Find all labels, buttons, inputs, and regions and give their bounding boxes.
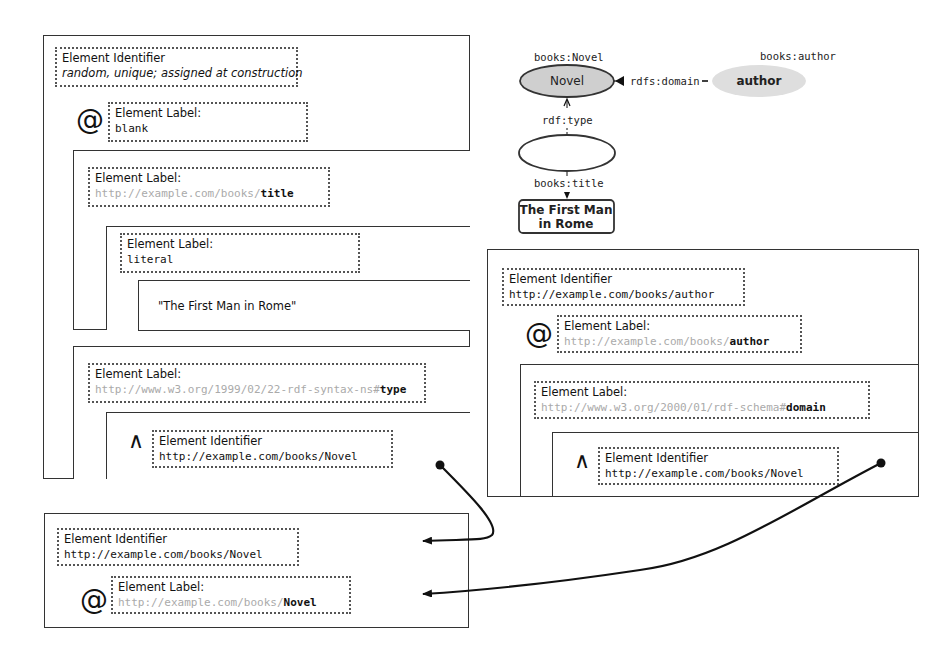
type-ref-identifier-box: Element Identifier http://example.com/bo… [152,430,393,468]
type-edge-label: rdf:type [542,114,593,126]
novel-node [520,65,614,97]
label-heading: Element Label: [118,580,344,595]
label-value: http://example.com/books/Novel [118,595,344,610]
identifier-heading: Element Identifier [605,451,832,466]
reference-caret-icon: ∧ [128,430,144,452]
domain-ref-identifier-box: Element Identifier http://example.com/bo… [598,447,839,485]
novel-label-box: Element Label: http://example.com/books/… [111,576,351,614]
at-icon: @ [80,586,108,614]
literal-label-box: Element Label: literal [120,233,360,273]
label-heading: Element Label: [541,385,863,400]
novel-identifier-box: Element Identifier http://example.com/bo… [57,528,299,566]
title-label-box: Element Label: http://example.com/books/… [88,167,330,207]
domain-edge-label: rdfs:domain [630,75,700,87]
left-label-box: Element Label: blank [108,102,308,142]
title-arrowhead-icon [564,192,570,199]
identifier-heading: Element Identifier [509,272,738,287]
identifier-heading: Element Identifier [64,532,292,547]
at-icon: @ [525,320,553,348]
identifier-value: random, unique; assigned at construction [62,66,291,81]
author-node [712,65,806,97]
identifier-value: http://example.com/books/Novel [605,466,832,481]
label-value: blank [115,121,301,136]
type-label-box: Element Label: http://www.w3.org/1999/02… [88,363,426,403]
label-value: http://example.com/books/author [564,334,795,349]
novel-uri-label: books:Novel [534,51,604,63]
label-value: http://example.com/books/title [95,186,323,201]
blank-node [519,135,615,171]
label-heading: Element Label: [127,237,353,252]
literal-value-text: "The First Man in Rome" [158,299,296,313]
label-heading: Element Label: [95,367,419,382]
domain-arrowhead-icon [615,76,624,86]
literal-node [519,200,614,233]
literal-node-line2: in Rome [539,217,594,231]
literal-node-line1: The First Man [520,203,613,217]
identifier-value: http://example.com/books/author [509,287,738,302]
novel-node-label: Novel [550,74,584,88]
reference-caret-icon: ∧ [574,450,590,472]
identifier-value: http://example.com/books/Novel [159,449,386,464]
domain-label-box: Element Label: http://www.w3.org/2000/01… [534,381,870,419]
label-heading: Element Label: [115,106,301,121]
right-identifier-box: Element Identifier http://example.com/bo… [502,268,745,306]
left-identifier-box: Element Identifier random, unique; assig… [55,47,298,87]
at-icon: @ [76,106,104,134]
author-uri-label: books:author [760,50,836,62]
label-value: literal [127,252,353,267]
author-node-label: author [736,74,781,88]
label-heading: Element Label: [564,319,795,334]
identifier-heading: Element Identifier [159,434,386,449]
identifier-value: http://example.com/books/Novel [64,547,292,562]
type-arrowhead-icon [564,99,570,106]
identifier-heading: Element Identifier [62,51,291,66]
right-label-box: Element Label: http://example.com/books/… [557,315,802,353]
title-edge-label: books:title [534,177,604,189]
label-heading: Element Label: [95,171,323,186]
label-value: http://www.w3.org/2000/01/rdf-schema#dom… [541,400,863,415]
label-value: http://www.w3.org/1999/02/22-rdf-syntax-… [95,382,419,397]
